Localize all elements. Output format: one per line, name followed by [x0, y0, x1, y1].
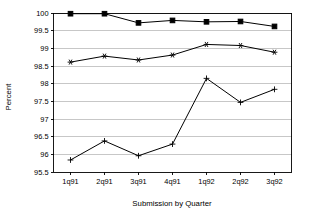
- x-tick-label: 1q92: [198, 177, 214, 186]
- y-tick-label: 97.5: [34, 97, 48, 106]
- chart-container: 95.59696.59797.59898.59999.5100 1q912q91…: [0, 0, 309, 212]
- y-tick-label: 99.5: [34, 26, 48, 35]
- data-point-marker: [170, 18, 175, 23]
- y-tick-label: 97: [40, 115, 48, 124]
- x-tick-label: 3q91: [130, 177, 146, 186]
- y-tick-label: 96.5: [34, 132, 48, 141]
- data-point-marker: [68, 11, 73, 16]
- x-tick-label: 2q91: [96, 177, 112, 186]
- line-chart: 95.59696.59797.59898.59999.5100 1q912q91…: [0, 0, 309, 212]
- y-tick-label: 96: [40, 150, 48, 159]
- x-tick-label: 4q91: [164, 177, 180, 186]
- y-axis-title: Percent: [4, 83, 13, 111]
- y-tick-label: 95.5: [34, 168, 48, 177]
- data-point-marker: [102, 11, 107, 16]
- data-point-marker: [238, 19, 243, 24]
- y-tick-label: 100: [36, 9, 48, 18]
- x-tick-label: 3q92: [266, 177, 282, 186]
- y-tick-label: 98: [40, 79, 48, 88]
- x-tick-label: 2q92: [232, 177, 248, 186]
- data-point-marker: [272, 24, 277, 29]
- x-axis-title: Submission by Quarter: [132, 199, 212, 208]
- y-tick-label: 98.5: [34, 62, 48, 71]
- y-tick-label: 99: [40, 44, 48, 53]
- data-point-marker: [136, 21, 141, 26]
- data-point-marker: [204, 20, 209, 25]
- x-tick-label: 1q91: [62, 177, 78, 186]
